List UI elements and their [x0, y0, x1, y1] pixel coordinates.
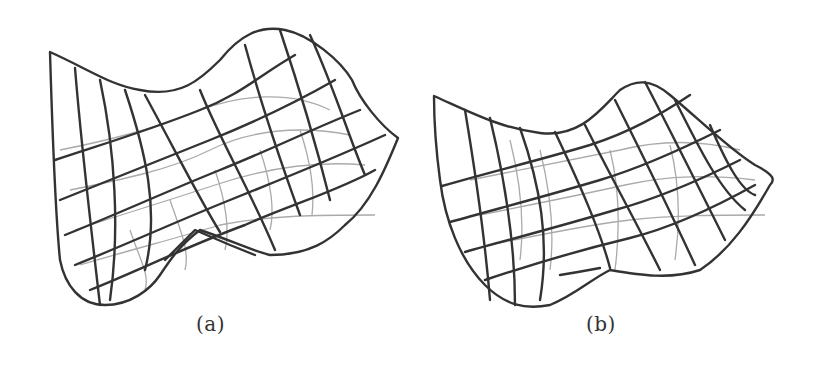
figure-a: (a) [0, 0, 410, 370]
surface-fold [560, 268, 600, 275]
caption-b: (b) [586, 312, 616, 336]
front-mesh-rows [442, 95, 755, 280]
surface-outline [50, 29, 398, 305]
front-mesh-rows [55, 55, 385, 290]
surface-outline [434, 82, 773, 306]
front-mesh-cols [75, 30, 365, 305]
caption-a: (a) [196, 312, 225, 336]
figure-b: (b) [410, 0, 814, 370]
